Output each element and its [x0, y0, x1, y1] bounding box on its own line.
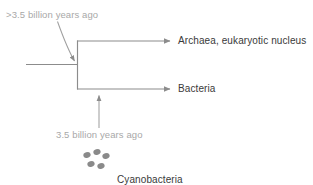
phylogenetic-tree-figure: >3.5 billion years ago 3.5 billion years… [0, 0, 313, 185]
cyanobacteria-fossil-cluster-icon [83, 148, 111, 170]
curved-pointer-to-node [58, 22, 75, 62]
taxon-label-archaea: Archaea, eukaryotic nucleus [178, 35, 306, 46]
fossil-caption-line1: Cyanobacteria [117, 174, 183, 185]
annotation-age-bottom: 3.5 billion years ago [56, 129, 143, 140]
annotation-age-top: >3.5 billion years ago [6, 9, 98, 20]
taxon-label-bacteria: Bacteria [178, 83, 216, 94]
fossil-caption: Cyanobacteria microfossils [117, 152, 183, 185]
